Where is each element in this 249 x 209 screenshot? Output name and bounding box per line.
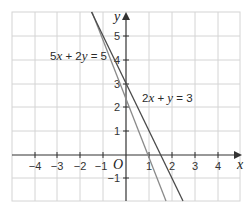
y-tick-label: 5 xyxy=(114,30,120,42)
x-tick-label: −4 xyxy=(29,160,42,172)
x-tick-label: 2 xyxy=(169,160,175,172)
x-tick-label: 3 xyxy=(192,160,198,172)
origin-label: O xyxy=(113,157,123,172)
x-axis-label: x xyxy=(236,157,244,172)
x-tick-label: 4 xyxy=(215,160,221,172)
x-tick-labels: −4 −3 −2 −1 1 2 3 4 xyxy=(29,160,221,172)
coordinate-graph: −4 −3 −2 −1 1 2 3 4 5 4 3 2 1 −1 x y O 5… xyxy=(0,0,249,209)
x-tick-label: −3 xyxy=(51,160,64,172)
y-axis-label: y xyxy=(112,9,121,24)
y-axis-arrow-icon xyxy=(122,12,130,20)
y-tick-label: −1 xyxy=(107,172,120,184)
equation-label-5x-2y-5: 5x + 2y = 5 xyxy=(50,48,107,63)
x-tick-label: −1 xyxy=(95,160,108,172)
y-tick-label: 1 xyxy=(114,125,120,137)
x-tick-label: −2 xyxy=(74,160,87,172)
axes xyxy=(12,18,236,201)
y-tick-label: 2 xyxy=(114,101,120,113)
equation-label-2x-y-3: 2x + y = 3 xyxy=(142,90,193,105)
